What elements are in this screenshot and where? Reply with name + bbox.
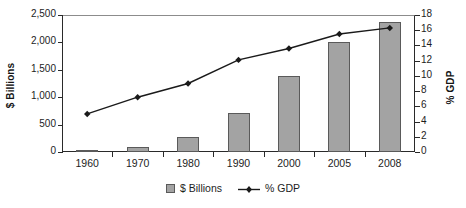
legend-item-line[interactable]: % GDP (238, 182, 300, 194)
x-axis-label-2008: 2008 (365, 157, 415, 169)
x-axis-label-1960: 1960 (62, 157, 112, 169)
line-series-path (87, 28, 390, 114)
legend-line-swatch-icon (238, 184, 260, 193)
line-series-markers (84, 25, 393, 117)
line-marker-2008 (387, 25, 393, 31)
x-axis-label-1980: 1980 (163, 157, 213, 169)
x-axis-label-2000: 2000 (264, 157, 314, 169)
legend-bar-swatch-icon (166, 184, 175, 193)
x-axis-label-2005: 2005 (314, 157, 364, 169)
legend-item-bar[interactable]: $ Billions (166, 182, 222, 194)
x-axis-label-1990: 1990 (214, 157, 264, 169)
line-marker-1970 (134, 94, 140, 100)
line-marker-1990 (235, 57, 241, 63)
line-marker-2000 (286, 45, 292, 51)
legend-line-label: % GDP (265, 182, 300, 194)
chart-legend: $ Billions % GDP (0, 182, 466, 194)
line-marker-2005 (336, 31, 342, 37)
line-marker-1980 (185, 80, 191, 86)
line-marker-1960 (84, 111, 90, 117)
chart-container: $ Billions % GDP 05001,0001,5002,0002,50… (0, 0, 466, 208)
legend-bar-label: $ Billions (180, 182, 222, 194)
line-series (0, 0, 466, 208)
x-axis-label-1970: 1970 (113, 157, 163, 169)
